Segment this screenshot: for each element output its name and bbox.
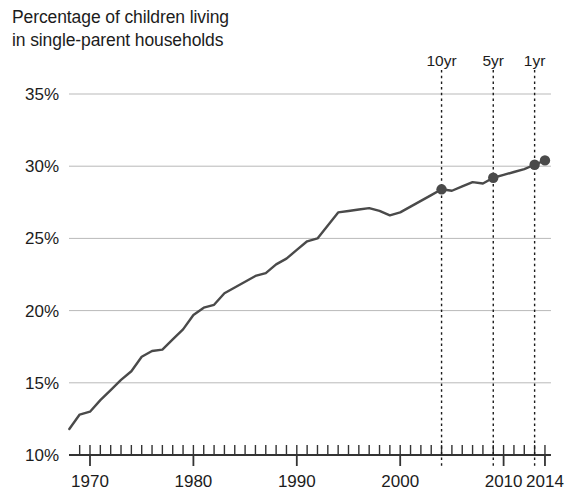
gridlines-group [69, 94, 551, 383]
y-axis-tick-label: 10% [25, 446, 59, 465]
data-point-marker-10yr [436, 184, 446, 194]
y-axis-tick-label: 25% [25, 229, 59, 248]
data-point-marker-end [540, 155, 550, 165]
y-axis-tick-label: 15% [25, 374, 59, 393]
x-minor-ticks-group [80, 445, 545, 455]
y-axis-tick-label: 20% [25, 302, 59, 321]
x-axis-tick-label: 1990 [278, 472, 316, 491]
x-axis-tick-label: 2000 [381, 472, 419, 491]
x-axis-tick-label: 2014 [526, 472, 564, 491]
data-point-marker-5yr [488, 173, 498, 183]
annotation-label-10yr: 10yr [426, 52, 456, 69]
data-markers-group [436, 155, 550, 194]
y-axis-tick-label: 35% [25, 85, 59, 104]
annotation-label-1yr: 1yr [524, 52, 546, 69]
y-axis-labels-group: 10%15%20%25%30%35% [25, 85, 59, 465]
data-line [69, 160, 545, 429]
x-major-ticks-group [90, 455, 545, 466]
annotation-labels-group: 10yr5yr1yr [426, 52, 545, 69]
data-point-marker-1yr [529, 160, 539, 170]
y-axis-tick-label: 30% [25, 157, 59, 176]
annotation-lines-group [442, 70, 535, 466]
x-axis-labels-group: 197019801990200020102014 [71, 472, 564, 491]
x-axis-tick-label: 1970 [71, 472, 109, 491]
chart-container: Percentage of children living in single-… [0, 0, 580, 493]
annotation-label-5yr: 5yr [482, 52, 504, 69]
data-line-group [69, 160, 545, 429]
x-axis-tick-label: 1980 [174, 472, 212, 491]
x-axis-tick-label: 2010 [485, 472, 523, 491]
line-chart: 10%15%20%25%30%35% 197019801990200020102… [0, 0, 580, 493]
